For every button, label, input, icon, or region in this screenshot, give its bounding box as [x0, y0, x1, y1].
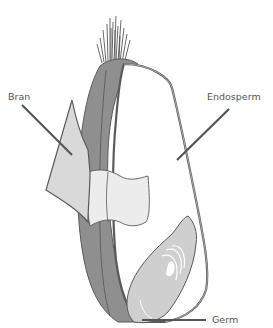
- bran-label: Bran: [8, 91, 30, 102]
- endosperm-label: Endosperm: [207, 91, 261, 102]
- germ-label: Germ: [212, 314, 238, 325]
- kernel-diagram: Bran Endosperm Germ: [0, 0, 273, 328]
- bran-light-band: [87, 170, 150, 226]
- brush-hairs: [97, 16, 130, 64]
- endosperm-leader-line: [177, 109, 229, 160]
